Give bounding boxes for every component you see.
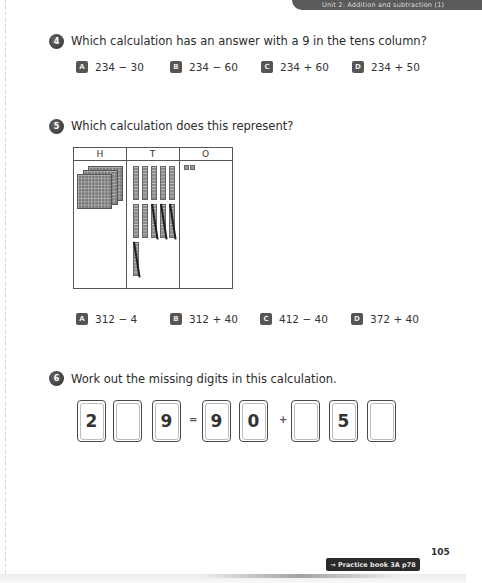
digit-box-filled: 9 [152, 400, 181, 442]
unit-banner: Unit 2: Addition and subtraction (1) [292, 0, 482, 10]
option-text: 234 − 60 [189, 61, 238, 73]
question-5-option-d[interactable]: D 372 + 40 [351, 313, 419, 325]
option-letter-badge: B [170, 313, 182, 325]
option-text: 234 − 30 [95, 61, 144, 73]
one-cube [184, 165, 189, 170]
option-text: 234 + 60 [280, 61, 329, 73]
column-divider [126, 148, 127, 288]
question-5-option-a[interactable]: A 312 − 4 [76, 313, 137, 325]
ten-rod-crossed-out [133, 242, 139, 276]
question-number-badge: 6 [49, 371, 64, 386]
one-cube [190, 165, 195, 170]
question-4-option-c[interactable]: C 234 + 60 [261, 61, 329, 73]
option-text: 412 − 40 [279, 313, 328, 325]
ten-rod [142, 204, 148, 238]
digit-box-empty[interactable] [367, 400, 396, 442]
digit-box-filled: 5 [329, 400, 358, 442]
option-letter-badge: A [76, 61, 88, 73]
ten-rod [133, 204, 139, 238]
question-6-text: Work out the missing digits in this calc… [71, 372, 337, 386]
option-text: 312 − 4 [95, 313, 137, 325]
digit-box-filled: 2 [77, 400, 106, 442]
option-letter-badge: A [76, 313, 88, 325]
option-text: 372 + 40 [370, 313, 419, 325]
ten-rod [151, 166, 157, 200]
question-5-option-b[interactable]: B 312 + 40 [170, 313, 238, 325]
option-letter-badge: C [261, 61, 273, 73]
question-number: 4 [54, 37, 60, 46]
digit-box-empty[interactable] [291, 400, 320, 442]
ten-rod [142, 166, 148, 200]
page-bottom-shadow [0, 574, 466, 583]
question-number-badge: 5 [49, 119, 64, 134]
hundred-flat [77, 174, 112, 209]
digit-box-filled: 9 [202, 400, 231, 442]
plus-sign: + [279, 414, 287, 425]
ten-rod-crossed-out [160, 204, 166, 238]
column-divider [179, 148, 180, 288]
question-4-option-b[interactable]: B 234 − 60 [170, 61, 238, 73]
ten-rod [133, 166, 139, 200]
ten-rod-crossed-out [151, 204, 157, 238]
unit-title: Unit 2: Addition and subtraction (1) [322, 1, 444, 9]
question-5-option-c[interactable]: C 412 − 40 [260, 313, 328, 325]
place-value-chart: H T O [73, 147, 233, 289]
ten-rod [160, 166, 166, 200]
question-number: 5 [54, 122, 60, 131]
question-number-badge: 4 [49, 34, 64, 49]
header-ones: O [179, 148, 232, 161]
page-number: 105 [431, 547, 450, 557]
ten-rod [169, 166, 175, 200]
option-letter-badge: B [170, 61, 182, 73]
page-edge-line [5, 0, 6, 575]
option-text: 312 + 40 [189, 313, 238, 325]
digit-box-empty[interactable] [113, 400, 142, 442]
question-4-text: Which calculation has an answer with a 9… [71, 34, 427, 48]
option-letter-badge: D [351, 313, 363, 325]
question-5-text: Which calculation does this represent? [71, 119, 293, 133]
option-letter-badge: D [352, 61, 364, 73]
header-tens: T [126, 148, 179, 161]
question-number: 6 [54, 374, 60, 383]
ten-rod-crossed-out [169, 204, 175, 238]
equals-sign: = [189, 414, 197, 425]
practice-book-link[interactable]: → Practice book 3A p78 [326, 558, 420, 571]
header-hundreds: H [74, 148, 126, 161]
question-4-option-d[interactable]: D 234 + 50 [352, 61, 420, 73]
question-4-option-a[interactable]: A 234 − 30 [76, 61, 144, 73]
option-letter-badge: C [260, 313, 272, 325]
digit-box-filled: 0 [239, 400, 268, 442]
option-text: 234 + 50 [371, 61, 420, 73]
